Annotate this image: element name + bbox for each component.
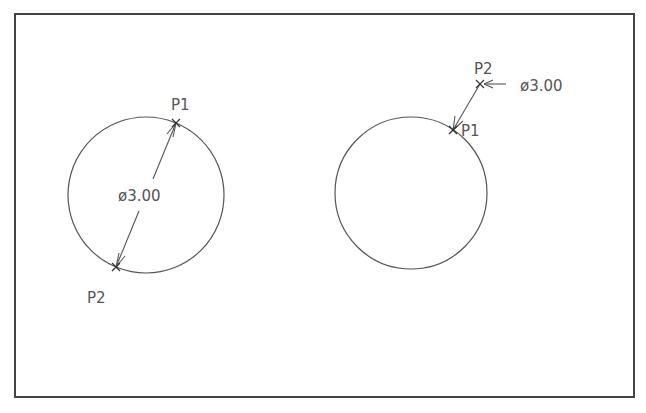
right-dimension-text: ø3.00 — [520, 77, 563, 95]
left-p2-label: P2 — [87, 289, 106, 307]
right-p2-marker-icon — [476, 80, 484, 88]
left-p1-label: P1 — [171, 96, 190, 114]
left-dimension-text: ø3.00 — [118, 187, 161, 205]
left-p1-marker-icon — [172, 119, 180, 127]
drawing-frame — [15, 14, 634, 397]
left-dimension-line-upper — [153, 123, 176, 179]
right-p1-label: P1 — [461, 122, 480, 140]
cad-drawing: P1 P2 ø3.00 P1 P2 ø3.00 — [0, 0, 646, 413]
left-dimension-line-lower — [116, 211, 139, 267]
right-circle-group: P1 P2 ø3.00 — [335, 60, 563, 269]
right-p2-label: P2 — [474, 60, 493, 78]
left-circle-group: P1 P2 ø3.00 — [68, 96, 224, 307]
left-p2-marker-icon — [112, 263, 120, 271]
